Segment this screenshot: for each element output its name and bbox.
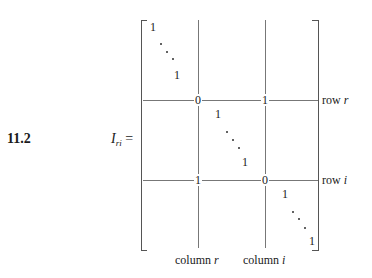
top-block-dot [166, 51, 168, 53]
equals-sign: = [125, 131, 133, 146]
row-i-guide-line [143, 180, 318, 181]
column-r-label: column r [175, 254, 219, 266]
column-r-guide-line [198, 20, 199, 248]
row-i-col-r-entry: 1 [194, 174, 202, 186]
row-i-label-prefix: row [322, 173, 341, 187]
column-i-label: column i [243, 254, 285, 266]
equation-number: 11.2 [7, 131, 31, 147]
row-i-label-var: i [344, 173, 347, 187]
row-r-col-r-entry: 0 [194, 94, 202, 106]
bottom-block-last-entry: 1 [308, 235, 316, 247]
top-block-dot [172, 58, 174, 60]
column-i-label-var: i [282, 253, 285, 267]
column-i-label-prefix: column [243, 253, 279, 267]
bottom-block-dot [292, 211, 294, 213]
row-r-label: row r [322, 94, 348, 106]
column-i-guide-line [265, 20, 266, 248]
row-i-label: row i [322, 174, 347, 186]
top-block-last-entry: 1 [173, 69, 181, 81]
row-r-label-var: r [344, 93, 349, 107]
middle-block-dot [232, 139, 234, 141]
row-i-col-i-entry: 0 [261, 174, 269, 186]
middle-block-dot [238, 147, 240, 149]
bottom-block-dot [298, 218, 300, 220]
column-r-label-prefix: column [175, 253, 211, 267]
middle-block-last-entry: 1 [241, 156, 249, 168]
top-block-dot [160, 43, 162, 45]
bottom-block-dot [304, 227, 306, 229]
middle-block-first-entry: 1 [214, 108, 222, 120]
column-r-label-var: r [214, 253, 219, 267]
bottom-block-first-entry: 1 [281, 188, 289, 200]
row-r-guide-line [143, 100, 318, 101]
lhs-subscript: ri [116, 138, 122, 148]
row-r-label-prefix: row [322, 93, 341, 107]
row-r-col-i-entry: 1 [261, 94, 269, 106]
top-block-first-entry: 1 [149, 21, 157, 33]
middle-block-dot [226, 131, 228, 133]
matrix-lhs: Iri = [111, 131, 133, 148]
